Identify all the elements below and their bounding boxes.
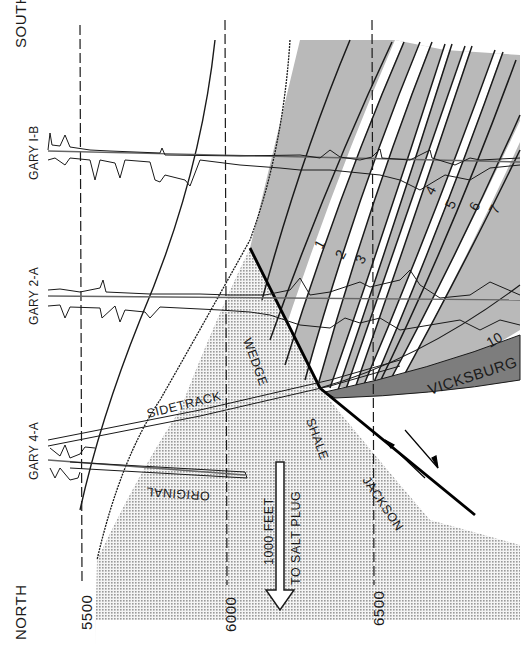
north-label: NORTH [12, 584, 29, 640]
well-label-gary-1b: GARY I-B [27, 125, 41, 180]
arrow-label-line1: 1000 FEET [262, 497, 276, 565]
south-label: SOUTH [12, 0, 29, 48]
depth-label-5500: 5500 [78, 595, 95, 630]
cross-section-diagram: NORTH SOUTH 5500 6000 6500 GARY I-B GARY… [0, 0, 530, 646]
depth-label-6000: 6000 [222, 597, 239, 632]
depth-line-5500 [80, 25, 82, 582]
well-label-gary-4a: GARY 4-A [27, 422, 41, 480]
fault-arrows [385, 430, 438, 478]
arrow-label-line2: TO SALT PLUG [289, 491, 303, 585]
depth-label-6500: 6500 [370, 591, 387, 626]
well-label-gary-2a: GARY 2-A [27, 267, 41, 325]
